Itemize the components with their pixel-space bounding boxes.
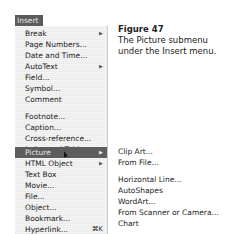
menu-item-label: Text Box bbox=[25, 169, 57, 180]
shortcut-label: ⌘K bbox=[92, 224, 103, 234]
menu-item-comment[interactable]: Comment bbox=[15, 94, 107, 105]
menu-item-label: Symbol... bbox=[25, 83, 60, 94]
submenu-item-clip-art[interactable]: Clip Art... bbox=[118, 146, 153, 157]
menu-item-object[interactable]: Object... bbox=[15, 202, 107, 213]
menu-item-bookmark[interactable]: Bookmark... bbox=[15, 213, 107, 224]
insert-menu: Break▶ Page Numbers... Date and Time... … bbox=[15, 26, 108, 234]
menu-item-label: Picture bbox=[25, 147, 51, 158]
picture-submenu: Clip Art... From File... Horizontal Line… bbox=[108, 146, 225, 234]
submenu-arrow-icon: ▶ bbox=[99, 158, 103, 169]
submenu-item-chart[interactable]: Chart bbox=[118, 218, 139, 229]
menu-item-label: HTML Object bbox=[25, 158, 73, 169]
menu-item-html-object[interactable]: HTML Object▶ bbox=[15, 158, 107, 169]
menu-item-label: Break bbox=[25, 28, 47, 39]
menu-item-footnote[interactable]: Footnote... bbox=[15, 111, 107, 122]
menu-item-page-numbers[interactable]: Page Numbers... bbox=[15, 39, 107, 50]
submenu-item-autoshapes[interactable]: AutoShapes bbox=[118, 185, 163, 196]
menu-item-break[interactable]: Break▶ bbox=[15, 28, 107, 39]
menu-item-caption[interactable]: Caption... bbox=[15, 122, 107, 133]
submenu-item-horizontal-line[interactable]: Horizontal Line... bbox=[118, 174, 181, 185]
insert-menu-title[interactable]: Insert bbox=[15, 15, 43, 26]
menu-item-label: Hyperlink... bbox=[25, 224, 68, 234]
menu-item-label: Date and Time... bbox=[25, 50, 87, 61]
menu-item-label: Footnote... bbox=[25, 111, 65, 122]
menu-item-label: Movie... bbox=[25, 180, 54, 191]
menu-item-movie[interactable]: Movie... bbox=[15, 180, 107, 191]
menu-item-field[interactable]: Field... bbox=[15, 72, 107, 83]
figure-caption: Figure 47 The Picture submenu under the … bbox=[118, 24, 218, 57]
figure-caption-text: The Picture submenu under the Insert men… bbox=[118, 35, 216, 56]
menu-item-label: Page Numbers... bbox=[25, 39, 87, 50]
menu-item-picture[interactable]: Picture▶ bbox=[15, 147, 107, 158]
submenu-arrow-icon: ▶ bbox=[99, 61, 103, 72]
menu-item-label: Caption... bbox=[25, 122, 61, 133]
submenu-arrow-icon: ▶ bbox=[99, 147, 103, 158]
menu-item-hyperlink[interactable]: Hyperlink...⌘K bbox=[15, 224, 107, 234]
submenu-item-from-scanner[interactable]: From Scanner or Camera... bbox=[118, 207, 219, 218]
menu-item-date-and-time[interactable]: Date and Time... bbox=[15, 50, 107, 61]
menu-item-label: Comment bbox=[25, 94, 62, 105]
figure-number: Figure 47 bbox=[118, 24, 218, 35]
submenu-item-from-file[interactable]: From File... bbox=[118, 157, 159, 168]
menu-item-label: File... bbox=[25, 191, 45, 202]
menu-item-file[interactable]: File... bbox=[15, 191, 107, 202]
menu-item-symbol[interactable]: Symbol... bbox=[15, 83, 107, 94]
menu-item-autotext[interactable]: AutoText▶ bbox=[15, 61, 107, 72]
submenu-item-wordart[interactable]: WordArt... bbox=[118, 196, 156, 207]
submenu-arrow-icon: ▶ bbox=[99, 28, 103, 39]
menu-item-label: Object... bbox=[25, 202, 57, 213]
menu-item-label: Bookmark... bbox=[25, 213, 70, 224]
menu-item-label: Field... bbox=[25, 72, 49, 83]
menu-item-label: Cross-reference... bbox=[25, 133, 91, 144]
menu-item-text-box[interactable]: Text Box bbox=[15, 169, 107, 180]
menu-item-label: AutoText bbox=[25, 61, 58, 72]
menu-item-cross-reference[interactable]: Cross-reference... bbox=[15, 133, 107, 144]
